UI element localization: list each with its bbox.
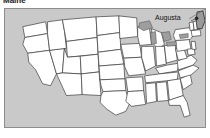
state-alabama[interactable] [156,82,168,102]
state-montana[interactable] [62,17,97,42]
state-louisiana[interactable] [126,91,146,107]
city-dot-icon[interactable] [195,17,198,20]
state-iowa[interactable] [121,43,142,58]
state-arkansas[interactable] [126,77,144,92]
state-minnesota[interactable] [119,16,138,39]
state-new-jersey[interactable] [191,41,196,49]
map-frame[interactable] [4,8,206,128]
state-kansas[interactable] [99,64,125,80]
city-label-augusta: Augusta [155,14,181,22]
lake-ontario [179,34,188,39]
state-massachusetts[interactable] [191,30,201,37]
state-new-mexico[interactable] [81,72,101,96]
state-mississippi[interactable] [146,83,157,104]
state-north-dakota[interactable] [96,16,120,36]
us-map-svg [5,9,205,127]
state-colorado[interactable] [80,54,99,74]
lake-erie [166,41,176,46]
state-south-dakota[interactable] [97,33,121,53]
page-title: Maine [3,0,26,5]
lake-michigan [151,32,157,45]
state-nebraska[interactable] [98,49,124,66]
map-thumbnail: Maine [0,0,210,138]
state-oklahoma[interactable] [100,79,126,92]
